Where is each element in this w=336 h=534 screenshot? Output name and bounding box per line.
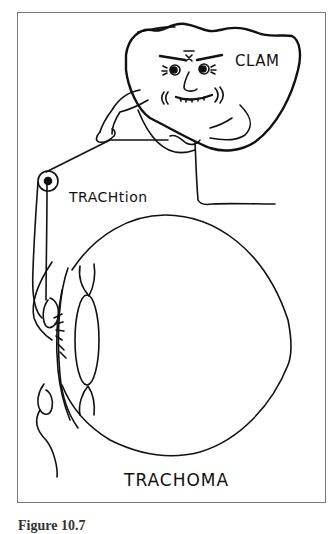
right-cheek-lines bbox=[215, 87, 223, 103]
figure-caption: Figure 10.7 bbox=[18, 518, 85, 534]
iris-lower bbox=[79, 386, 94, 415]
rope-upper bbox=[46, 140, 168, 172]
left-eye-lashes bbox=[162, 66, 167, 75]
clam-left-arm bbox=[100, 90, 148, 134]
traction-rope bbox=[33, 140, 168, 318]
left-eyebrow bbox=[160, 56, 185, 60]
left-pupil bbox=[171, 67, 177, 73]
nose bbox=[184, 72, 197, 91]
right-eyebrow bbox=[197, 55, 222, 60]
right-pupil bbox=[200, 66, 206, 72]
eyeball-outline bbox=[62, 215, 291, 456]
left-cheek-lines bbox=[162, 92, 168, 104]
pulley-axle bbox=[45, 178, 52, 185]
lashes bbox=[54, 314, 66, 358]
hand-below bbox=[37, 410, 58, 477]
rope-vertical-to-lid bbox=[46, 185, 47, 300]
pulley-icon bbox=[38, 171, 58, 191]
iris-upper bbox=[79, 264, 94, 296]
eye-illustration bbox=[33, 215, 291, 477]
trachoma-label: TRACHOMA bbox=[124, 470, 229, 490]
clam-right-arm bbox=[210, 105, 250, 140]
traction-label: TRACHtion bbox=[69, 189, 148, 205]
forehead-x bbox=[186, 55, 192, 61]
right-eye-lashes bbox=[211, 65, 216, 74]
mouth bbox=[176, 95, 212, 99]
clam-shell-outline bbox=[126, 24, 300, 151]
clam-label: CLAM bbox=[235, 52, 279, 70]
clam-rope-right bbox=[195, 143, 275, 204]
clam-illustration bbox=[96, 24, 300, 205]
lens bbox=[75, 295, 99, 385]
